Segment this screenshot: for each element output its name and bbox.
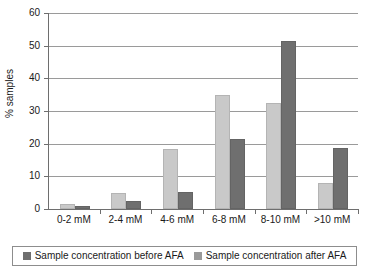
y-tick-label-20: 20	[14, 139, 40, 149]
x-tick-label-4: 8-10 mM	[255, 214, 307, 226]
y-axis-tick-labels: 6050403020100	[8, 0, 40, 275]
legend-label-1: Sample concentration after AFA	[206, 251, 347, 261]
y-tick-label-0: 0	[14, 204, 40, 214]
bar-before	[266, 103, 281, 209]
legend-item-1: Sample concentration after AFA	[194, 251, 347, 261]
bar-group	[204, 13, 256, 209]
x-tick-label-5: >10 mM	[306, 214, 358, 226]
y-tick-label-10: 10	[14, 171, 40, 181]
bar-before	[318, 183, 333, 209]
chart-container: % samples 6050403020100 0-2 mM2-4 mM4-6 …	[0, 0, 369, 275]
x-axis-tick-labels: 0-2 mM2-4 mM4-6 mM6-8 mM8-10 mM>10 mM	[48, 214, 359, 230]
bar-after	[281, 41, 296, 209]
bar-after	[230, 139, 245, 209]
x-tick-label-3: 6-8 mM	[203, 214, 255, 226]
x-tick-label-1: 2-4 mM	[100, 214, 152, 226]
bar-after	[178, 192, 193, 209]
bar-group	[256, 13, 308, 209]
x-tick-label-0: 0-2 mM	[48, 214, 100, 226]
legend-label-0: Sample concentration before AFA	[35, 251, 184, 261]
bars-layer	[49, 13, 358, 209]
x-tick-label-2: 4-6 mM	[151, 214, 203, 226]
legend-swatch-before-icon	[23, 252, 31, 260]
bar-group	[101, 13, 153, 209]
bar-group	[307, 13, 359, 209]
bar-before	[60, 204, 75, 209]
bar-after	[75, 206, 90, 209]
bar-before	[163, 149, 178, 209]
bar-after	[126, 201, 141, 209]
y-tick-label-50: 50	[14, 41, 40, 51]
bar-before	[111, 193, 126, 209]
y-tick-label-60: 60	[14, 8, 40, 18]
y-tick-label-40: 40	[14, 73, 40, 83]
bar-after	[333, 148, 348, 209]
bar-group	[49, 13, 101, 209]
legend-swatch-after-icon	[194, 252, 202, 260]
chart-legend: Sample concentration before AFASample co…	[12, 246, 357, 266]
bar-group	[152, 13, 204, 209]
bar-before	[215, 95, 230, 209]
y-tick-label-30: 30	[14, 106, 40, 116]
legend-item-0: Sample concentration before AFA	[23, 251, 184, 261]
